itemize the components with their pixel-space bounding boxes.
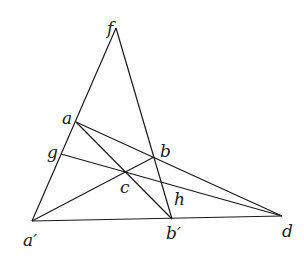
point-label-g: g [47, 142, 58, 162]
point-label-a: a [62, 108, 72, 128]
geometry-diagram: fagbcha′b′d [0, 0, 304, 280]
point-label-d: d [282, 221, 293, 241]
point-label-b: b [160, 141, 171, 161]
line-aprime-b [32, 157, 154, 221]
line-aprime-d [32, 216, 282, 221]
point-label-f: f [105, 18, 116, 38]
point-label-c: c [120, 177, 130, 197]
line-f-aprime [32, 28, 116, 221]
point-label-h: h [174, 189, 185, 209]
point-label-b-prime: b′ [166, 223, 181, 243]
line-g-d [61, 154, 282, 216]
diagram-labels: fagbcha′b′d [23, 18, 293, 250]
point-label-a-prime: a′ [23, 230, 37, 250]
